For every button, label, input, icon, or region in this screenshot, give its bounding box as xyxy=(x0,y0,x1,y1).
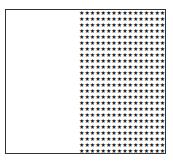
star-grid-region: ★★★★★★★★★★★★★★★★★★★★★★★★★★★★★★★★★★★★★★★★… xyxy=(79,10,165,153)
empty-region xyxy=(6,10,79,153)
diagram-frame: ★★★★★★★★★★★★★★★★★★★★★★★★★★★★★★★★★★★★★★★★… xyxy=(5,9,166,154)
